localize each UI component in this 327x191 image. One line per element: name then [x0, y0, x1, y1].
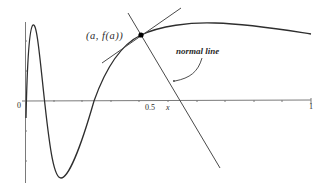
annotation-arrow: [175, 58, 202, 81]
x-tick-label-1: 1: [309, 102, 313, 111]
normal-line-label: normal line: [176, 46, 219, 56]
x-tick-label-0.5: 0.5: [145, 103, 155, 112]
x-axis: [22, 100, 311, 101]
x-axis-label: x: [165, 103, 170, 112]
tangent-normal-diagram: (a, f(a)) normal line 0 0.5 x 1: [0, 0, 327, 191]
origin-label: 0: [17, 101, 21, 110]
annotation-arrow-tip: [173, 80, 175, 82]
tangency-point: [138, 32, 143, 37]
point-label: (a, f(a)): [86, 30, 123, 42]
